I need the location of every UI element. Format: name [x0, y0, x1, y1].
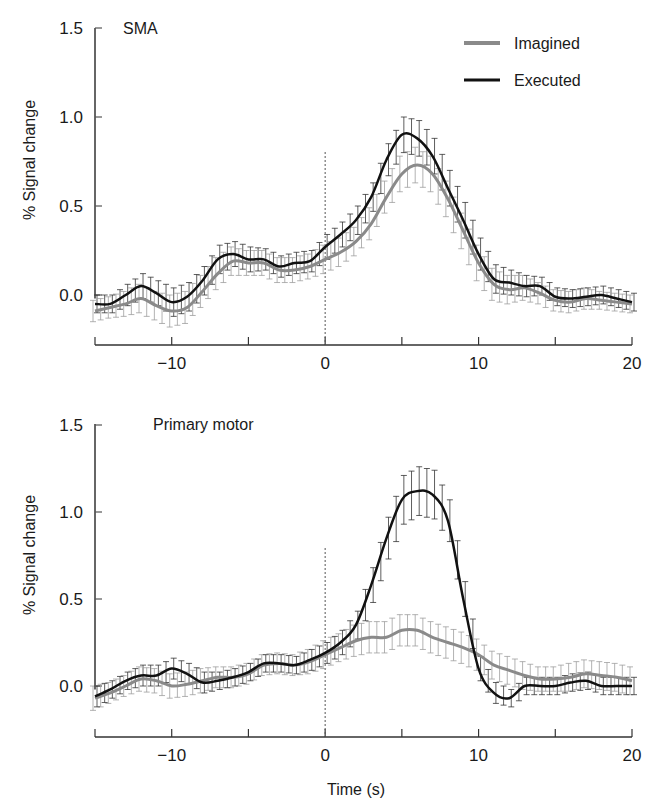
- y-axis-title-bottom: % Signal change: [21, 495, 38, 615]
- y-tick-label: 1.5: [59, 19, 83, 38]
- y-tick-label: 0.0: [59, 286, 83, 305]
- panel-title-sma: SMA: [123, 20, 158, 37]
- bottom-axes: 0.00.51.01.5−1001020: [59, 416, 641, 765]
- top-series: [90, 117, 637, 327]
- x-tick-label: −10: [157, 354, 186, 373]
- series-executed: [94, 117, 637, 316]
- x-tick-label: 20: [623, 746, 642, 765]
- line-executed: [95, 133, 632, 304]
- x-tick-label: 10: [469, 354, 488, 373]
- x-tick-label: 20: [623, 354, 642, 373]
- x-tick-label: 10: [469, 746, 488, 765]
- y-tick-label: 1.0: [59, 108, 83, 127]
- legend-label-executed: Executed: [514, 72, 581, 89]
- x-tick-label: 0: [320, 746, 329, 765]
- y-tick-label: 1.5: [59, 416, 83, 435]
- y-tick-label: 1.0: [59, 503, 83, 522]
- x-axis-title: Time (s): [327, 781, 385, 798]
- y-tick-label: 0.0: [59, 677, 83, 696]
- legend: Imagined Executed: [464, 35, 581, 89]
- x-tick-label: 0: [320, 354, 329, 373]
- x-tick-label: −10: [157, 746, 186, 765]
- series-executed: [94, 467, 637, 707]
- line-imagined: [95, 629, 632, 698]
- chart-figure: 0.00.51.01.5−1001020 SMA % Signal change…: [0, 0, 665, 811]
- y-tick-label: 0.5: [59, 590, 83, 609]
- series-imagined: [90, 615, 633, 711]
- y-tick-label: 0.5: [59, 197, 83, 216]
- panel-primary-motor: 0.00.51.01.5−1001020 Primary motor % Sig…: [21, 416, 641, 798]
- panel-title-primary-motor: Primary motor: [153, 416, 254, 433]
- bottom-series: [90, 467, 637, 711]
- legend-label-imagined: Imagined: [514, 35, 580, 52]
- panel-sma: 0.00.51.01.5−1001020 SMA % Signal change…: [21, 19, 641, 373]
- y-axis-title-top: % Signal change: [21, 100, 38, 220]
